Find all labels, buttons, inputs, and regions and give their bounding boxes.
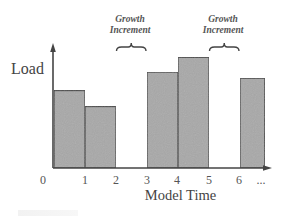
x-tick-1: 1 — [82, 173, 88, 188]
bar-0 — [54, 91, 85, 168]
x-tick-4: 4 — [174, 173, 180, 188]
faint-caption-residue — [18, 210, 78, 216]
y-axis-arrow-icon — [50, 43, 56, 52]
growth-increment-annotation-2: Growth Increment — [203, 14, 244, 36]
annotation-line-1: Growth — [203, 14, 244, 25]
brace-icon-2 — [210, 43, 240, 51]
brace-icon-1 — [117, 43, 147, 51]
x-tick-6: 6 — [236, 173, 242, 188]
bar-2 — [147, 72, 178, 168]
annotation-line-2: Increment — [110, 25, 151, 36]
bar-3 — [178, 57, 209, 168]
x-axis-label: Model Time — [0, 187, 283, 204]
x-tick-ellipsis: ... — [257, 173, 266, 188]
annotation-line-1: Growth — [110, 14, 151, 25]
y-axis-label: Load — [11, 60, 44, 78]
x-tick-2: 2 — [113, 173, 119, 188]
bar-1 — [85, 107, 116, 169]
bars-group — [54, 57, 265, 168]
x-tick-0: 0 — [40, 173, 46, 188]
growth-increment-annotation-1: Growth Increment — [110, 14, 151, 36]
x-axis-arrow-icon — [263, 165, 272, 171]
braces-group — [117, 43, 240, 51]
load-chart: Load Model Time 0 1 2 3 4 5 6 ... Growth… — [0, 0, 283, 220]
x-tick-3: 3 — [144, 173, 150, 188]
annotation-line-2: Increment — [203, 25, 244, 36]
x-tick-5: 5 — [206, 173, 212, 188]
bar-4 — [240, 78, 265, 168]
